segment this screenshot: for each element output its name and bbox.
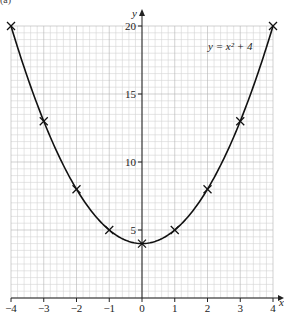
x-tick-label: −3 [38, 302, 50, 314]
y-tick-label: 10 [125, 156, 137, 168]
equation-label: y = x² + 4 [207, 40, 253, 52]
y-axis-label: y [131, 7, 137, 19]
x-tick-label: 1 [172, 302, 178, 314]
y-tick-label: 20 [125, 20, 137, 32]
parabola-chart: −4−3−2−1012345101520 y = x² + 4 x y [0, 0, 284, 317]
x-tick-label: 3 [238, 302, 244, 314]
y-tick-label: 15 [125, 88, 137, 100]
y-tick-label: 5 [131, 224, 137, 236]
tick-labels: −4−3−2−1012345101520 [5, 20, 276, 314]
x-axis-label: x [278, 296, 284, 308]
x-tick-label: −4 [5, 302, 17, 314]
x-tick-label: 4 [270, 302, 276, 314]
x-tick-label: 0 [139, 302, 145, 314]
x-tick-label: −2 [71, 302, 83, 314]
x-tick-label: −1 [103, 302, 115, 314]
x-tick-label: 2 [205, 302, 211, 314]
